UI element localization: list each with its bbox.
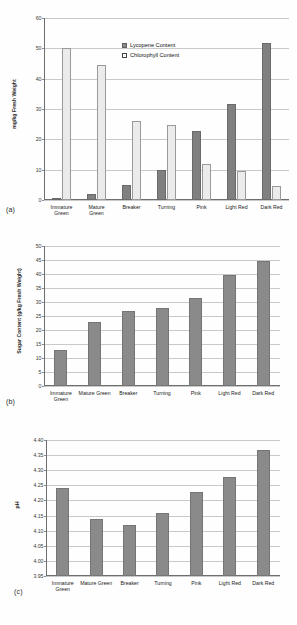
bar-lycopene-content-turning: [157, 170, 166, 200]
bar-ph-light-red: [223, 477, 236, 576]
panel-a-ylabel: mg/kg Fresh Weight: [11, 64, 17, 144]
panel-b-xlabels: ImmatureGreenMature GreenBreakerTurningP…: [44, 388, 280, 403]
bar-lycopene-content-mature-green: [87, 194, 96, 200]
x-tick-label: Light Red: [213, 580, 246, 593]
x-tick-label: MatureGreen: [79, 204, 114, 217]
bar-group: [184, 18, 219, 200]
panel-a-legend: Lycopene Content Chlorophyll Content: [122, 42, 179, 58]
bar-sugar-content-immature-green: [54, 350, 67, 386]
legend-item-lycopene: Lycopene Content: [122, 42, 179, 48]
bar-group: [213, 440, 246, 576]
x-tick-label: Turning: [149, 204, 184, 217]
bar-group: [113, 440, 146, 576]
y-tick-label: 60: [36, 15, 44, 21]
panel-c: (c) pH 3.954.004.054.104.154.204.254.304…: [0, 430, 297, 620]
bar-sugar-content-turning: [156, 308, 169, 386]
y-tick-label: 4.15: [33, 513, 46, 519]
bar-group: [44, 18, 79, 200]
bar-chlorophyll-content-dark-red: [272, 186, 281, 200]
y-tick-label: 4.05: [33, 543, 46, 549]
bar-sugar-content-dark-red: [257, 261, 270, 386]
bar-lycopene-content-dark-red: [262, 43, 271, 200]
x-tick-label: Breaker: [111, 390, 145, 403]
bar-group: [111, 246, 145, 386]
x-tick-label: Dark Red: [247, 580, 280, 593]
panel-b-plot: 05101520253035404550: [44, 246, 280, 386]
panel-c-bars: [46, 440, 280, 576]
panel-a-xlabels: ImmatureGreenMatureGreenBreakerTurningPi…: [44, 202, 289, 217]
y-tick-label: 50: [36, 45, 44, 51]
bar-group: [247, 440, 280, 576]
panel-a: (a) mg/kg Fresh Weight 0102030405060 Imm…: [0, 6, 297, 228]
y-tick-label: 4.25: [33, 482, 46, 488]
bar-ph-turning: [156, 513, 169, 576]
legend-label-chlorophyll: Chlorophyll Content: [130, 52, 179, 58]
bar-group: [179, 246, 213, 386]
panel-b-ylabel: Sugar Content (g/kg Fresh Weight): [16, 256, 22, 366]
y-tick-label: 35: [36, 285, 44, 291]
legend-item-chlorophyll: Chlorophyll Content: [122, 52, 179, 58]
y-tick-label: 4.20: [33, 497, 46, 503]
y-tick-label: 30: [36, 299, 44, 305]
bar-lycopene-content-immature-green: [52, 198, 61, 200]
y-tick-label: 30: [36, 106, 44, 112]
bar-group: [79, 440, 112, 576]
bar-ph-immature-green: [56, 488, 69, 576]
bar-lycopene-content-light-red: [227, 104, 236, 200]
bar-lycopene-content-pink: [192, 131, 201, 200]
bar-group: [46, 440, 79, 576]
panel-b: (b) Sugar Content (g/kg Fresh Weight) 05…: [0, 238, 297, 418]
y-tick-label: 10: [36, 167, 44, 173]
bar-ph-breaker: [123, 525, 136, 576]
x-tick-label: Mature Green: [79, 580, 112, 593]
y-tick-label: 10: [36, 355, 44, 361]
bar-sugar-content-pink: [189, 298, 202, 386]
panel-c-xlabels: ImmatureGreenMature GreenBreakerTurningP…: [46, 578, 280, 593]
bar-ph-mature-green: [90, 519, 103, 576]
bar-sugar-content-breaker: [122, 311, 135, 386]
x-tick-label: Pink: [179, 390, 213, 403]
y-tick-label: 4.35: [33, 452, 46, 458]
y-tick-label: 20: [36, 327, 44, 333]
legend-label-lycopene: Lycopene Content: [130, 42, 175, 48]
panel-a-label: (a): [6, 206, 15, 213]
panel-c-plot: 3.954.004.054.104.154.204.254.304.354.40: [46, 440, 280, 576]
bar-group: [79, 18, 114, 200]
y-tick-label: 4.10: [33, 528, 46, 534]
y-tick-label: 20: [36, 136, 44, 142]
x-tick-label: Pink: [184, 204, 219, 217]
y-tick-label: 50: [36, 243, 44, 249]
x-tick-label: ImmatureGreen: [44, 204, 79, 217]
panel-b-bars: [44, 246, 280, 386]
bar-group: [145, 246, 179, 386]
x-tick-label: Breaker: [114, 204, 149, 217]
gridline: [44, 386, 280, 387]
x-tick-label: Turning: [146, 580, 179, 593]
y-tick-label: 40: [36, 271, 44, 277]
bar-group: [213, 246, 247, 386]
panel-c-label: (c): [14, 588, 23, 595]
bar-group: [78, 246, 112, 386]
y-tick-label: 4.30: [33, 467, 46, 473]
legend-swatch-icon-chlorophyll: [122, 53, 127, 58]
bar-group: [219, 18, 254, 200]
bar-chlorophyll-content-breaker: [132, 121, 141, 200]
x-tick-label: Breaker: [113, 580, 146, 593]
gridline: [44, 200, 289, 201]
bar-ph-pink: [190, 492, 203, 576]
y-tick-label: 4.00: [33, 558, 46, 564]
x-tick-label: Dark Red: [254, 204, 289, 217]
figure-root: (a) mg/kg Fresh Weight 0102030405060 Imm…: [0, 0, 297, 625]
y-tick-label: 40: [36, 76, 44, 82]
bar-lycopene-content-breaker: [122, 185, 131, 200]
bar-group: [180, 440, 213, 576]
x-tick-label: Light Red: [219, 204, 254, 217]
gridline: [46, 576, 280, 577]
x-tick-label: Dark Red: [246, 390, 280, 403]
y-tick-label: 4.40: [33, 437, 46, 443]
y-tick-label: 45: [36, 257, 44, 263]
bar-sugar-content-light-red: [223, 275, 236, 386]
bar-chlorophyll-content-turning: [167, 125, 176, 200]
x-tick-label: Mature Green: [78, 390, 112, 403]
bar-chlorophyll-content-immature-green: [62, 48, 71, 200]
